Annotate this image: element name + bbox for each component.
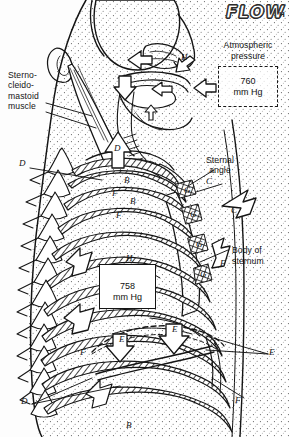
diagram-canvas: FLOW H Atmospheric pressure 760 mm Hg 75… [0, 0, 290, 437]
marker-rib-mid: F [116, 210, 122, 220]
marker-diaphragm-arrow-left: E [119, 334, 125, 344]
marker-sternal-angle: C [206, 176, 212, 186]
marker-intercostal-upper: B [124, 175, 130, 185]
marker-intercostal-lower: B [126, 420, 132, 430]
marker-costal-cartilage-1: G [184, 185, 191, 195]
marker-airflow-head: H [181, 52, 188, 62]
marker-vertebra-lower: D [21, 396, 28, 406]
intrapulmonary-pressure-box: 758 mm Hg [99, 264, 156, 309]
marker-costal-cartilage-2: G [190, 209, 197, 219]
sternal-angle-label-line1: Sternal [188, 155, 252, 165]
body-of-sternum-label-line2: sternum [232, 256, 264, 266]
marker-diaphragm-arrow-right: E [172, 324, 178, 334]
marker-rib-right-upper: F [220, 258, 226, 268]
intrapulmonary-pressure-value: 758 [120, 281, 135, 292]
flow-title: FLOW [226, 2, 285, 22]
marker-rib-lower-left: F [80, 347, 86, 357]
marker-sternum-arrow: C [231, 205, 237, 215]
intrapulmonary-pressure-unit: mm Hg [113, 292, 142, 303]
body-of-sternum-label-line1: Body of [232, 245, 262, 255]
marker-costal-cartilage-3: G [196, 239, 203, 249]
sternal-angle-label-line2: angle [188, 165, 252, 175]
marker-diaphragm-right: E [269, 347, 275, 357]
atmospheric-pressure-value: 760 [240, 76, 255, 87]
marker-intercostal-mid: B [130, 196, 136, 206]
marker-vertebra-upper: D [19, 158, 26, 168]
marker-intrapulmonary: H [126, 253, 133, 263]
atmospheric-pressure-label-line2: pressure [206, 51, 290, 61]
marker-rib-bottom-right: F [235, 395, 241, 405]
marker-rib-upper: F [112, 188, 118, 198]
atmospheric-pressure-unit: mm Hg [234, 87, 263, 98]
atmospheric-pressure-box: 760 mm Hg [218, 66, 278, 107]
marker-costal-cartilage-4: G [200, 269, 207, 279]
flow-title-suffix: H [279, 10, 285, 19]
sternocleidomastoid-label: Sterno- cleido- mastoid muscle [8, 70, 39, 112]
marker-rib-elevation: D [114, 143, 121, 153]
atmospheric-pressure-label-line1: Atmospheric [206, 40, 290, 50]
